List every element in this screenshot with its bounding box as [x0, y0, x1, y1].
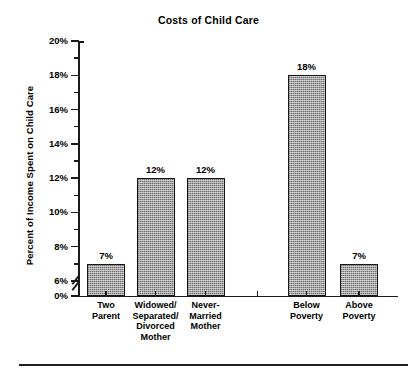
x-axis-label-line: Poverty — [323, 311, 395, 322]
y-tick-label-18: 18% — [28, 70, 68, 80]
y-tick-0 — [71, 295, 79, 297]
bar — [137, 178, 175, 296]
x-axis-label: AbovePoverty — [323, 300, 395, 321]
bar — [187, 178, 225, 296]
y-tick-12 — [71, 177, 79, 179]
x-tick — [358, 291, 360, 296]
y-axis-line — [78, 41, 80, 297]
y-minor-tick-9 — [74, 229, 79, 230]
footer-divider — [19, 364, 408, 366]
y-minor-tick-11 — [74, 195, 79, 196]
bar-value-label: 7% — [334, 251, 384, 261]
x-axis-label-line: Above — [323, 300, 395, 311]
y-tick-16 — [71, 109, 79, 111]
x-axis-label: Never-MarriedMother — [170, 300, 242, 332]
y-tick-18 — [71, 75, 79, 77]
bar-value-label: 18% — [282, 62, 332, 72]
y-tick-14 — [71, 143, 79, 145]
bar — [288, 75, 326, 296]
y-tick-8 — [71, 246, 79, 248]
y-tick-label-6: 6% — [28, 276, 68, 286]
y-minor-tick-7 — [74, 263, 79, 264]
bar-value-label: 12% — [131, 165, 181, 175]
x-tick — [306, 291, 308, 296]
x-axis-label-line: Never- — [170, 300, 242, 311]
chart-title: Costs of Child Care — [0, 14, 417, 26]
x-axis-label-line: Mother — [170, 321, 242, 332]
y-minor-tick-17 — [74, 92, 79, 93]
y-tick-10 — [71, 212, 79, 214]
x-tick — [155, 291, 157, 296]
x-tick — [105, 291, 107, 296]
x-tick — [205, 291, 207, 296]
y-tick-label-8: 8% — [28, 242, 68, 252]
bar-value-label: 12% — [181, 165, 231, 175]
y-tick-label-0: 0% — [28, 291, 68, 301]
bar-value-label: 7% — [81, 251, 131, 261]
y-tick-label-10: 10% — [28, 207, 68, 217]
y-tick-label-14: 14% — [28, 139, 68, 149]
x-tick-group-separator — [257, 291, 259, 296]
y-minor-tick-15 — [74, 126, 79, 127]
y-minor-tick-13 — [74, 160, 79, 161]
chart-figure: Costs of Child Care Percent of Income Sp… — [0, 0, 417, 380]
x-axis-label-line: Mother — [120, 332, 192, 343]
y-tick-20 — [71, 40, 79, 42]
y-tick-label-20: 20% — [28, 36, 68, 46]
y-tick-label-12: 12% — [28, 173, 68, 183]
x-axis-label-line: Married — [170, 311, 242, 322]
y-minor-tick-19 — [74, 57, 79, 58]
y-tick-label-16: 16% — [28, 105, 68, 115]
